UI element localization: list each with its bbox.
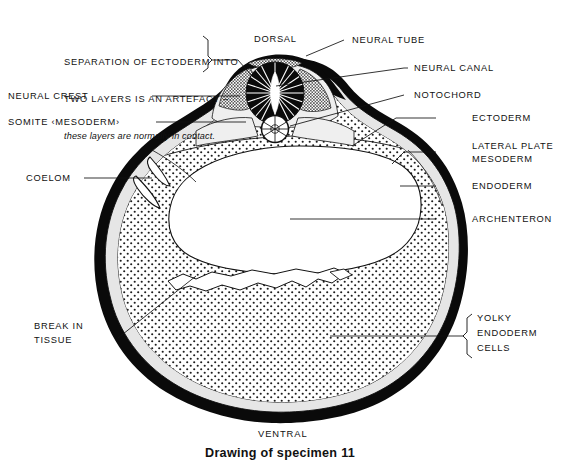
label-lateral-plate-line1: LATERAL PLATE [472, 140, 553, 152]
label-somite: SOMITE ‹MESODERM› [8, 116, 120, 128]
label-coelom: COELOM [26, 172, 71, 184]
yolky-brace [463, 314, 472, 358]
label-neural-tube: NEURAL TUBE [352, 34, 425, 46]
figure-canvas: SEPARATION OF ECTODERM INTO TWO LAYERS I… [0, 0, 580, 472]
label-archenteron: ARCHENTERON [472, 213, 552, 225]
label-ventral: VENTRAL [258, 428, 308, 439]
label-lateral-plate-line2: MESODERM [472, 153, 533, 165]
label-yolky-line1: YOLKY [477, 312, 512, 324]
label-dorsal: DORSAL [254, 33, 297, 45]
label-break-in-tissue-line2: TISSUE [34, 334, 72, 346]
label-ectoderm: ECTODERM [472, 112, 531, 124]
annotation-note-line1: SEPARATION OF ECTODERM INTO [64, 56, 239, 68]
label-neural-crest: NEURAL CREST [8, 90, 88, 102]
label-yolky-line3: CELLS [477, 342, 510, 354]
label-endoderm: ENDODERM [472, 180, 532, 192]
label-notochord: NOTOCHORD [414, 89, 482, 101]
label-yolky-line2: ENDODERM [477, 327, 537, 339]
label-neural-canal: NEURAL CANAL [414, 62, 494, 74]
annotation-note: SEPARATION OF ECTODERM INTO TWO LAYERS I… [64, 32, 239, 166]
figure-caption: Drawing of specimen 11 [205, 446, 355, 460]
annotation-note-line2: TWO LAYERS IS AN ARTEFACT – [64, 93, 239, 105]
label-break-in-tissue-line1: BREAK IN [34, 320, 83, 332]
annotation-note-line3: these layers are normally in contact. [64, 130, 239, 142]
